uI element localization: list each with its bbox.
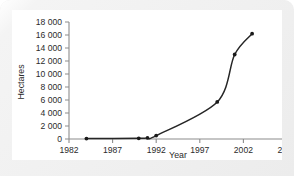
data-point-marker bbox=[215, 100, 219, 104]
figure-card: 02 0004 0006 0008 00010 00012 00014 0001… bbox=[0, 0, 294, 176]
x-tick-label: 1992 bbox=[147, 145, 166, 155]
y-tick-label: 0 bbox=[57, 134, 62, 144]
y-tick-label: 8 000 bbox=[40, 82, 62, 92]
line-chart: 02 0004 0006 0008 00010 00012 00014 0001… bbox=[12, 10, 282, 160]
y-tick-label: 12 000 bbox=[36, 56, 63, 66]
y-axis-ticks: 02 0004 0006 0008 00010 00012 00014 0001… bbox=[36, 17, 69, 144]
chart-plot-panel: 02 0004 0006 0008 00010 00012 00014 0001… bbox=[12, 10, 282, 160]
y-tick-label: 10 000 bbox=[36, 69, 63, 79]
data-point-markers bbox=[85, 32, 254, 141]
data-point-marker bbox=[146, 136, 150, 140]
x-tick-label: 2002 bbox=[234, 145, 253, 155]
x-tick-label: 1982 bbox=[59, 145, 78, 155]
x-tick-label: 2007 bbox=[277, 145, 282, 155]
y-tick-label: 14 000 bbox=[36, 43, 63, 53]
data-point-marker bbox=[154, 134, 158, 138]
data-point-marker bbox=[233, 53, 237, 57]
data-series-line bbox=[86, 34, 252, 139]
y-tick-label: 2 000 bbox=[40, 121, 62, 131]
y-tick-label: 18 000 bbox=[36, 17, 63, 27]
y-tick-label: 6 000 bbox=[40, 95, 62, 105]
data-point-marker bbox=[137, 136, 141, 140]
x-tick-label: 1997 bbox=[190, 145, 209, 155]
data-point-marker bbox=[85, 137, 89, 141]
y-tick-label: 4 000 bbox=[40, 108, 62, 118]
y-axis-title: Hectares bbox=[16, 64, 26, 100]
x-axis-title: Year bbox=[169, 150, 187, 160]
data-point-marker bbox=[250, 32, 254, 36]
y-tick-label: 16 000 bbox=[36, 30, 63, 40]
x-tick-label: 1987 bbox=[103, 145, 122, 155]
